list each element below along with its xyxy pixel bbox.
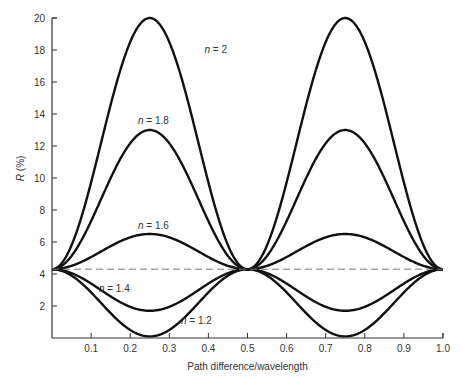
x-axis-title: Path difference/wavelength [187,361,307,372]
y-tick-label: 2 [39,301,45,312]
y-tick-label: 8 [39,205,45,216]
y-tick-label: 12 [34,141,46,152]
x-tick-label: 0.2 [123,343,137,354]
x-ticks: 0.10.20.30.40.50.60.70.80.91.0 [84,333,450,354]
y-tick-label: 4 [39,269,45,280]
y-tick-label: 6 [39,237,45,248]
y-axis-title-unit: (%) [15,156,26,174]
y-ticks: 2468101214161820 [34,13,57,312]
reflectance-chart: 0.10.20.30.40.50.60.70.80.91.0 246810121… [0,0,461,378]
y-tick-label: 10 [34,173,46,184]
y-axis-title: R (%) [15,156,26,182]
y-tick-label: 20 [34,13,46,24]
curve-n2 [52,18,443,269]
y-axis-title-var: R [15,174,26,181]
curve-n1-2 [52,269,443,336]
curve-n1-6 [52,234,443,269]
y-tick-label: 18 [34,45,46,56]
x-tick-label: 0.9 [397,343,411,354]
curve-label: n = 1.2 [181,315,212,326]
x-tick-label: 0.4 [201,343,215,354]
curve-label: n = 2 [204,44,227,55]
x-tick-label: 0.7 [319,343,333,354]
curve-label: n = 1.4 [99,283,130,294]
x-tick-label: 0.3 [162,343,176,354]
x-tick-label: 0.5 [241,343,255,354]
y-tick-label: 16 [34,77,46,88]
x-tick-label: 0.8 [358,343,372,354]
x-tick-label: 0.1 [84,343,98,354]
curve-label: n = 1.8 [138,115,169,126]
curve-label: n = 1.6 [138,220,169,231]
y-tick-label: 14 [34,109,46,120]
x-tick-label: 1.0 [436,343,450,354]
x-tick-label: 0.6 [280,343,294,354]
curve-n1-8 [52,130,443,269]
